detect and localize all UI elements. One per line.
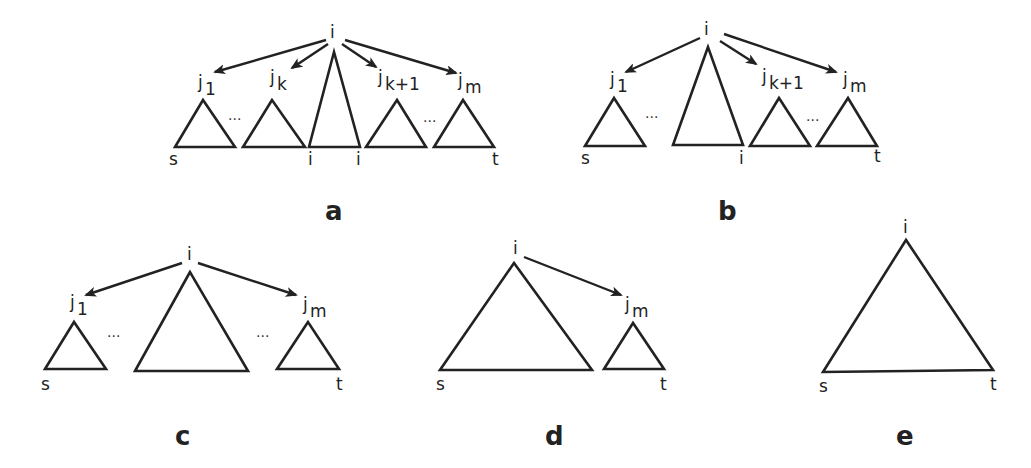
svg-text:k: k: [277, 74, 287, 94]
subtree-jk1: [366, 100, 426, 147]
child-label-jm: j m: [624, 294, 649, 321]
child-label-jk: j k: [269, 67, 287, 94]
panel-a: i j 1 j k j k+1 j m ... ... s i i t: [169, 22, 499, 226]
ellipsis: ...: [107, 324, 120, 340]
subtree-root: [673, 47, 743, 145]
label-i: i: [739, 148, 744, 168]
root-label: i: [513, 238, 518, 258]
svg-text:m: m: [632, 301, 649, 321]
svg-text:j: j: [624, 294, 630, 314]
subtree-root: [440, 263, 592, 370]
ellipsis: ...: [423, 109, 436, 125]
label-s: s: [41, 374, 50, 394]
svg-text:j: j: [761, 66, 767, 86]
panel-d: i j m s t d: [436, 238, 667, 451]
child-label-jk1: j k+1: [377, 67, 420, 94]
label-i-right: i: [356, 149, 361, 169]
panel-b: i j 1 j k+1 j m ... ... s i t b: [581, 19, 881, 226]
root-label: i: [187, 244, 192, 264]
arrow-to-jm: [198, 263, 296, 295]
ellipsis: ...: [645, 105, 658, 121]
svg-text:m: m: [310, 301, 327, 321]
svg-text:j: j: [269, 67, 275, 87]
subtree-root: [823, 240, 993, 372]
panel-letter-d: d: [545, 421, 564, 451]
subtree-root: [135, 272, 248, 371]
svg-text:j: j: [197, 72, 203, 92]
panel-e: i s t e: [819, 217, 997, 451]
panel-letter-e: e: [896, 421, 914, 451]
subtree-jm: [817, 98, 877, 146]
svg-text:1: 1: [617, 76, 628, 96]
label-t: t: [990, 374, 997, 394]
subtree-root: [309, 52, 360, 147]
child-label-j1: j 1: [69, 292, 88, 319]
root-label: i: [330, 22, 335, 42]
subtree-jk1: [750, 98, 810, 146]
ellipsis: ...: [228, 107, 241, 123]
svg-text:j: j: [842, 69, 848, 89]
subtree-jm: [604, 323, 664, 369]
label-s: s: [436, 374, 445, 394]
child-label-jm: j m: [457, 70, 482, 97]
label-t: t: [660, 374, 667, 394]
subtree-jk: [243, 100, 305, 147]
label-t: t: [336, 374, 343, 394]
svg-text:m: m: [850, 76, 867, 96]
arrow-to-jm: [524, 257, 621, 295]
svg-text:1: 1: [77, 299, 88, 319]
label-s: s: [581, 148, 590, 168]
arrow-to-jk1: [720, 41, 756, 64]
subtree-jm: [434, 100, 494, 147]
subtree-j1: [45, 322, 106, 369]
svg-text:1: 1: [205, 79, 216, 99]
ellipsis: ...: [806, 108, 819, 124]
label-s: s: [169, 149, 178, 169]
subtree-j1: [585, 98, 645, 146]
svg-text:j: j: [377, 67, 383, 87]
root-label: i: [704, 19, 709, 39]
child-label-j1: j 1: [609, 69, 628, 96]
svg-text:m: m: [465, 77, 482, 97]
subtree-jm: [277, 322, 339, 369]
svg-text:j: j: [457, 70, 463, 90]
figure-canvas: i j 1 j k j k+1 j m ... ... s i i t: [0, 0, 1031, 468]
panel-letter-a: a: [325, 196, 343, 226]
root-label: i: [903, 217, 908, 237]
svg-text:j: j: [69, 292, 75, 312]
ellipsis: ...: [256, 324, 269, 340]
child-label-jm: j m: [302, 294, 327, 321]
child-label-j1: j 1: [197, 72, 216, 99]
child-label-jm: j m: [842, 69, 867, 96]
svg-text:j: j: [609, 69, 615, 89]
svg-text:k+1: k+1: [385, 74, 420, 94]
label-i-left: i: [308, 149, 313, 169]
label-t: t: [874, 146, 881, 166]
subtree-j1: [175, 100, 235, 147]
panel-letter-b: b: [718, 196, 737, 226]
arrow-to-j1: [626, 38, 700, 72]
svg-text:k+1: k+1: [769, 73, 804, 93]
svg-text:j: j: [302, 294, 308, 314]
arrow-to-j1: [86, 263, 182, 295]
label-t: t: [492, 149, 499, 169]
panel-letter-c: c: [175, 421, 190, 451]
label-s: s: [819, 376, 828, 396]
panel-c: i j 1 j m ... ... s t c: [41, 244, 343, 451]
child-label-jk1: j k+1: [761, 66, 804, 93]
